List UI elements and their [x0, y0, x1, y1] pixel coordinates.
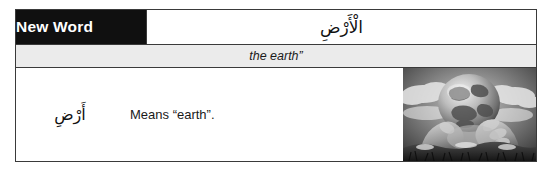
definition-arabic-word: أَرْضِ [16, 105, 124, 124]
table-row-definition: أَرْضِ Means “earth”. [16, 68, 537, 162]
definition-gloss-text: Means “earth”. [124, 107, 403, 122]
headword-cell: الْأَرْضِ [147, 10, 537, 45]
earth-photo-graphic [403, 68, 536, 161]
definition-cell: أَرْضِ Means “earth”. [16, 68, 537, 162]
table-row-headword: New Word الْأَرْضِ [16, 10, 537, 45]
vocabulary-table: New Word الْأَرْضِ the earth” أَرْضِ Mea… [15, 9, 537, 162]
definition-layout: أَرْضِ Means “earth”. [16, 68, 536, 161]
new-word-label: New Word [16, 18, 93, 35]
new-word-label-cell: New Word [16, 10, 147, 45]
headword-arabic-text: الْأَرْضِ [147, 10, 536, 44]
translation-text: the earth” [16, 45, 536, 67]
translation-cell: the earth” [16, 45, 537, 68]
earth-in-hands-image [403, 68, 536, 161]
table-row-translation: the earth” [16, 45, 537, 68]
vocabulary-card-page: New Word الْأَرْضِ the earth” أَرْضِ Mea… [0, 0, 552, 173]
